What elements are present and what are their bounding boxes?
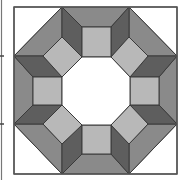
square-left [33, 77, 62, 105]
neighbor-block-edge [0, 0, 4, 180]
square-top [82, 27, 111, 57]
center-octagon [62, 57, 130, 125]
quilt-pieces [14, 7, 177, 174]
square-right [130, 77, 159, 105]
quilt-block-diagram [0, 0, 185, 180]
square-bottom [82, 125, 111, 154]
